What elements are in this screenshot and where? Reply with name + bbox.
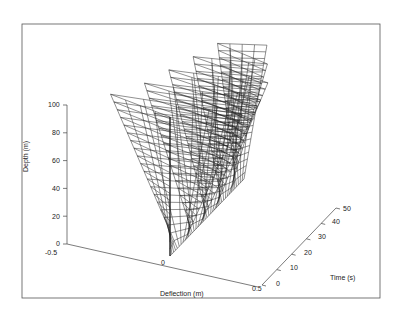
mesh-line-time xyxy=(125,100,175,250)
time-tick-mark xyxy=(262,285,266,286)
time-tick-40: 40 xyxy=(332,218,340,225)
time-tick-mark xyxy=(306,239,310,240)
wireframe-surface xyxy=(111,43,268,256)
depth-tick-60: 60 xyxy=(52,157,60,164)
time-tick-mark xyxy=(321,223,325,224)
time-tick-mark xyxy=(277,270,281,271)
depth-axis-title: Depth (m) xyxy=(22,141,29,172)
time-axis xyxy=(262,208,336,285)
time-axis-title: Time (s) xyxy=(330,274,355,281)
deflection-tick-pos: 0.5 xyxy=(252,285,262,292)
depth-tick-40: 40 xyxy=(52,185,60,192)
deflection-tick-zero: 0 xyxy=(161,259,165,266)
time-axis-ticks xyxy=(262,208,340,286)
deflection-axis-title: Deflection (m) xyxy=(160,290,204,297)
depth-axis-ticks xyxy=(63,105,67,244)
depth-tick-20: 20 xyxy=(52,213,60,220)
time-tick-50: 50 xyxy=(343,205,351,212)
mesh-line-depth xyxy=(111,43,268,117)
deflection-tick-neg: -0.5 xyxy=(45,249,57,256)
depth-tick-100: 100 xyxy=(48,101,60,108)
time-tick-mark xyxy=(336,208,340,209)
mesh-line-time xyxy=(189,99,194,237)
time-tick-20: 20 xyxy=(304,249,312,256)
chart-canvas xyxy=(0,0,400,318)
time-tick-0: 0 xyxy=(276,280,280,287)
depth-tick-0: 0 xyxy=(56,240,60,247)
time-tick-10: 10 xyxy=(290,264,298,271)
time-tick-30: 30 xyxy=(318,233,326,240)
plot-frame xyxy=(22,24,380,298)
time-tick-mark xyxy=(292,254,296,255)
depth-tick-80: 80 xyxy=(52,129,60,136)
